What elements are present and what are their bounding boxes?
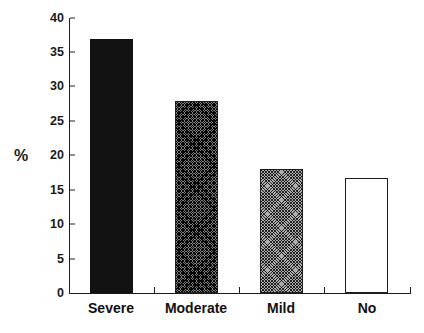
bar-moderate xyxy=(175,101,218,294)
xtick-mark-1 xyxy=(154,287,155,293)
xtick-mark-3 xyxy=(324,287,325,293)
xcat-label-moderate: Moderate xyxy=(165,300,227,316)
bar-mild xyxy=(260,169,303,293)
bar-chart-figure: % 40 35 30 25 20 15 10 5 0 Sev xyxy=(0,0,424,333)
bar-severe xyxy=(90,39,133,293)
xtick-mark-2 xyxy=(239,287,240,293)
xtick-mark-0 xyxy=(69,287,70,293)
xcat-label-severe: Severe xyxy=(88,300,134,316)
bar-no xyxy=(345,178,388,293)
xcat-label-mild: Mild xyxy=(267,300,295,316)
xtick-mark-4 xyxy=(410,287,411,293)
xcat-label-no: No xyxy=(358,300,377,316)
